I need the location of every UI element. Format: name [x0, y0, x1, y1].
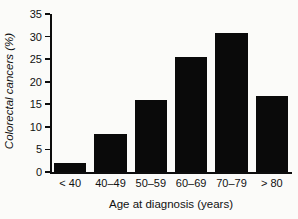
y-axis-tick-label-text: 25: [16, 54, 42, 64]
x-axis-tick-label: 40–49: [90, 177, 130, 189]
bar: [215, 33, 247, 172]
bar-chart-figure: Colorectal cancers (%) 05101520253035 < …: [0, 0, 298, 219]
bar: [94, 134, 126, 172]
y-axis-tick-label: 35: [14, 9, 42, 19]
y-axis-tick-label: 10: [14, 122, 42, 132]
bar-slot: [252, 14, 292, 172]
y-axis-tick-label-text: 30: [16, 32, 42, 42]
bar-slot: [171, 14, 211, 172]
y-axis-tick-label-text: 10: [16, 122, 42, 132]
x-axis-tick-label: 70–79: [211, 177, 251, 189]
bar-slot: [131, 14, 171, 172]
y-axis-tick-label-text: 15: [16, 99, 42, 109]
y-axis-tick-label-text: 35: [16, 9, 42, 19]
x-axis-line: [50, 172, 292, 174]
bar: [175, 57, 207, 172]
bar-slot: [211, 14, 251, 172]
x-axis-tick-label: < 40: [50, 177, 90, 189]
y-axis-tick-label: 25: [14, 54, 42, 64]
y-axis-tick-label: 30: [14, 32, 42, 42]
bar: [256, 96, 288, 172]
bar: [135, 100, 167, 172]
bar-slot: [50, 14, 90, 172]
bar-slot: [90, 14, 130, 172]
x-axis-tick-label: > 80: [252, 177, 292, 189]
x-axis-title: Age at diagnosis (years): [50, 198, 292, 211]
plot-area: [50, 14, 292, 172]
y-axis-tick-label: 0: [14, 167, 42, 177]
y-axis-tick-label: 5: [14, 144, 42, 154]
x-axis-tick-label: 50–59: [131, 177, 171, 189]
y-axis-tick-label: 20: [14, 77, 42, 87]
x-axis-tick-label: 60–69: [171, 177, 211, 189]
bar: [54, 163, 86, 172]
y-axis-tick-label-text: 0: [16, 167, 42, 177]
y-axis-tick-label-text: 5: [16, 144, 42, 154]
y-axis-tick-label-text: 20: [16, 77, 42, 87]
y-axis-tick-label: 15: [14, 99, 42, 109]
